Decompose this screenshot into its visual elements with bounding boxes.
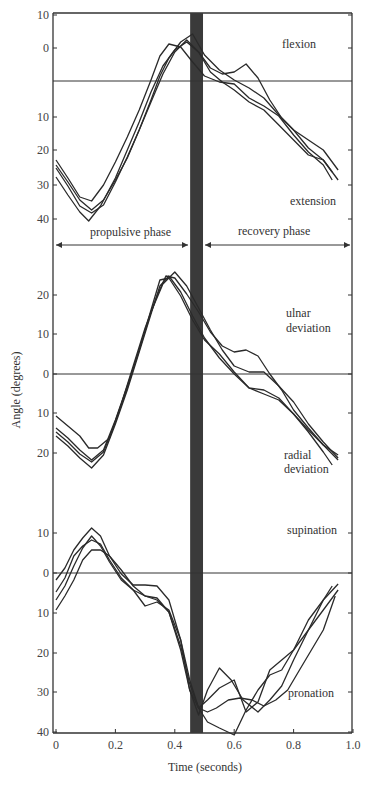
y-tick-label: 0 xyxy=(43,41,49,55)
y-tick-label: 0 xyxy=(43,566,49,580)
radial-deviation-label-2: deviation xyxy=(284,462,329,476)
supination-label: supination xyxy=(287,523,337,537)
wrist-angle-chart: 1001020304020100102010010203040 flexion … xyxy=(0,0,374,785)
radial-deviation-label-1: radial xyxy=(284,448,312,462)
y-axis-title: Angle (degrees) xyxy=(9,352,23,429)
y-tick-label: 10 xyxy=(37,110,49,124)
propulsive-phase-label: propulsive phase xyxy=(90,225,171,239)
x-tick-label: 1.0 xyxy=(346,738,361,752)
y-tick-label: 10 xyxy=(37,526,49,540)
flexion-label: flexion xyxy=(282,37,316,51)
phase-transition-band xyxy=(190,13,203,733)
y-tick-label: 20 xyxy=(37,143,49,157)
ulnar-deviation-label-2: deviation xyxy=(286,321,331,335)
y-tick-label: 10 xyxy=(37,606,49,620)
y-tick-label: 10 xyxy=(37,406,49,420)
y-tick-label: 20 xyxy=(37,646,49,660)
recovery-phase-label: recovery phase xyxy=(238,224,310,238)
x-axis-title: Time (seconds) xyxy=(168,760,242,774)
y-tick-label: 10 xyxy=(37,8,49,22)
extension-label: extension xyxy=(290,194,336,208)
pronation-label: pronation xyxy=(288,686,334,700)
x-tick-label: 0.2 xyxy=(108,738,123,752)
y-tick-label: 40 xyxy=(37,725,49,739)
x-tick-label: 0 xyxy=(53,738,59,752)
y-tick-label: 20 xyxy=(37,288,49,302)
x-tick-label: 0.8 xyxy=(286,738,301,752)
y-tick-label: 40 xyxy=(37,212,49,226)
y-tick-label: 30 xyxy=(37,178,49,192)
y-tick-label: 20 xyxy=(37,446,49,460)
y-tick-label: 30 xyxy=(37,685,49,699)
ulnar-deviation-label-1: ulnar xyxy=(286,306,311,320)
x-tick-label: 0.6 xyxy=(227,738,242,752)
x-tick-label: 0.4 xyxy=(167,738,182,752)
y-tick-label: 10 xyxy=(37,327,49,341)
y-tick-label: 0 xyxy=(43,367,49,381)
